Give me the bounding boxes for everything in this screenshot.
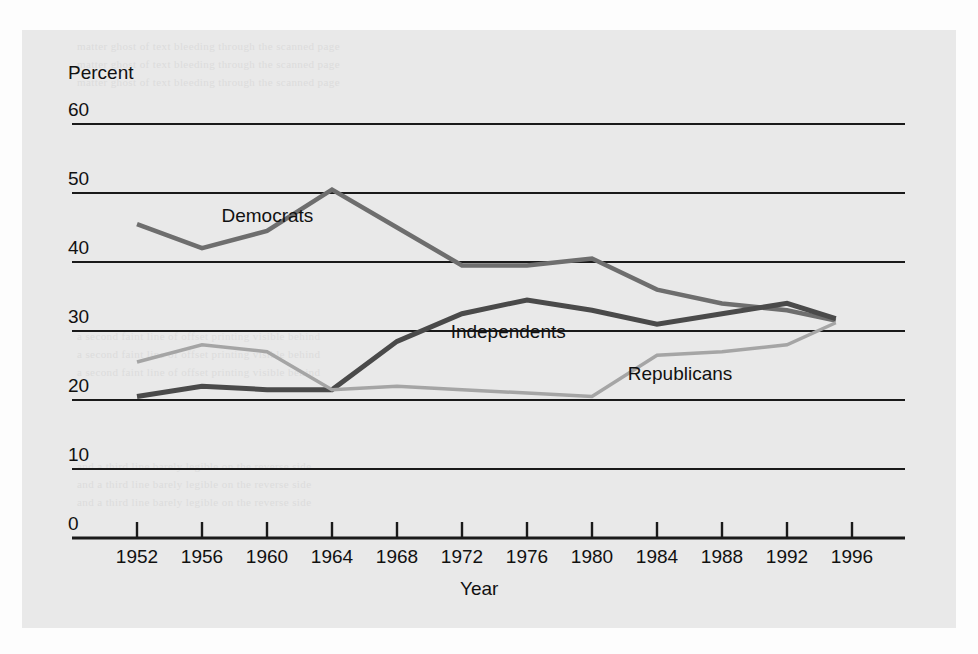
x-tick-label-1964: 1964 <box>302 546 362 568</box>
x-tick-label-1996: 1996 <box>822 546 882 568</box>
x-tick-label-1972: 1972 <box>432 546 492 568</box>
y-tick-label-60: 60 <box>68 99 89 121</box>
y-tick-label-30: 30 <box>68 306 89 328</box>
series-label-republicans: Republicans <box>628 363 733 385</box>
x-tick-label-1952: 1952 <box>107 546 167 568</box>
x-tick-label-1956: 1956 <box>172 546 232 568</box>
y-tick-label-40: 40 <box>68 237 89 259</box>
y-tick-label-10: 10 <box>68 444 89 466</box>
series-label-independents: Independents <box>451 321 566 343</box>
y-tick-label-0: 0 <box>68 513 79 535</box>
x-axis-title: Year <box>460 578 498 600</box>
y-tick-label-20: 20 <box>68 375 89 397</box>
scanned-page: matter ghost of text bleeding through th… <box>0 0 978 654</box>
series-label-democrats: Democrats <box>222 205 314 227</box>
x-tick-label-1992: 1992 <box>757 546 817 568</box>
x-tick-label-1960: 1960 <box>237 546 297 568</box>
x-tick-label-1980: 1980 <box>562 546 622 568</box>
x-tick-label-1988: 1988 <box>692 546 752 568</box>
x-tick-label-1976: 1976 <box>497 546 557 568</box>
x-tick-label-1968: 1968 <box>367 546 427 568</box>
y-axis-title: Percent <box>68 62 133 84</box>
y-tick-label-50: 50 <box>68 168 89 190</box>
x-tick-label-1984: 1984 <box>627 546 687 568</box>
